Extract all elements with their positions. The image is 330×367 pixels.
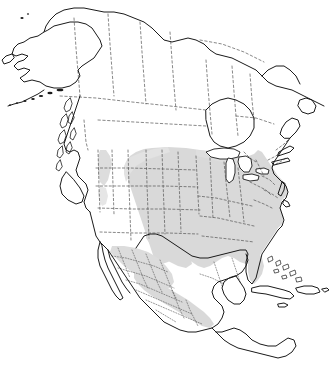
lake-erie [243, 174, 259, 181]
range-map-figure: Range [0, 0, 330, 367]
lake-superior [206, 148, 240, 159]
north-america-range-map [0, 0, 330, 367]
lake-michigan [226, 158, 235, 183]
